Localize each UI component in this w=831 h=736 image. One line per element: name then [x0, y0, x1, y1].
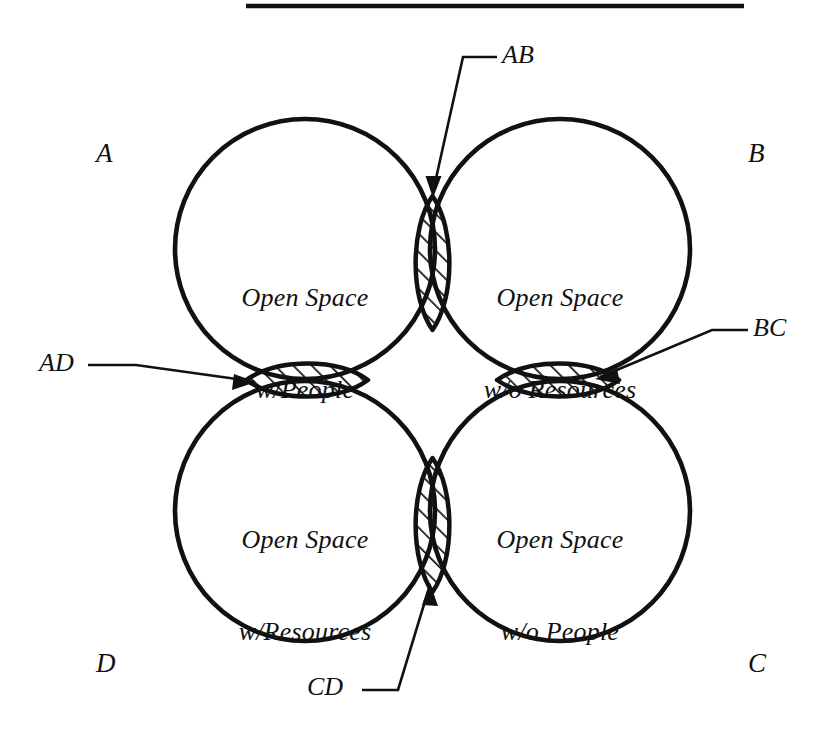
venn-diagram-figure: Open Space w/People Open Space w/o Resou…	[0, 0, 831, 736]
region-a-line2: w/People	[180, 375, 430, 406]
intersection-label-bc: BC	[753, 313, 786, 344]
region-b-line2: w/o Resources	[435, 375, 685, 406]
region-label-B: Open Space w/o Resources	[435, 222, 685, 467]
leader-line-AB	[426, 57, 498, 198]
region-label-A: Open Space w/People	[180, 222, 430, 467]
region-label-D: Open Space w/Resources	[180, 464, 430, 709]
region-c-line1: Open Space	[435, 525, 685, 556]
region-d-line2: w/Resources	[180, 617, 430, 648]
intersection-label-ad: AD	[39, 348, 74, 379]
arrowhead-AB	[426, 176, 442, 198]
region-a-line1: Open Space	[180, 283, 430, 314]
corner-label-a: A	[96, 138, 113, 170]
intersection-label-ab: AB	[502, 40, 534, 71]
region-label-C: Open Space w/o People	[435, 464, 685, 709]
region-b-line1: Open Space	[435, 283, 685, 314]
intersection-label-cd: CD	[307, 672, 343, 703]
corner-label-b: B	[748, 138, 765, 170]
region-c-line2: w/o People	[435, 617, 685, 648]
corner-label-c: C	[748, 648, 766, 680]
region-d-line1: Open Space	[180, 525, 430, 556]
corner-label-d: D	[96, 648, 116, 680]
